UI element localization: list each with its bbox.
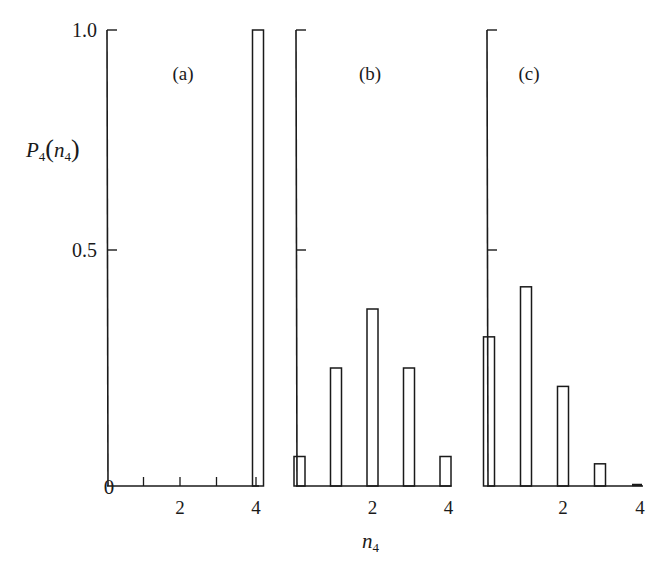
bar: [521, 287, 532, 486]
y-axis: [107, 30, 108, 486]
x-tick-label: 4: [444, 497, 454, 518]
bar: [440, 457, 451, 487]
y-axis: [487, 30, 488, 486]
x-tick-label: 2: [558, 497, 568, 518]
x-tick-label: 4: [251, 497, 261, 518]
bar: [595, 464, 606, 486]
y-axis-label: P4(n4): [25, 134, 80, 164]
y-tick-label: 0.5: [72, 239, 97, 261]
origin-label: 0: [104, 475, 115, 499]
x-tick-label: 4: [635, 497, 645, 518]
bar: [367, 309, 378, 486]
chart-figure: 24(a)24(b)24(c)0.51.00P4(n4)n4: [0, 0, 666, 574]
bar: [404, 368, 415, 486]
bar: [558, 386, 569, 486]
x-tick-label: 2: [175, 497, 185, 518]
panel-b: [294, 30, 452, 486]
y-axis: [296, 30, 297, 486]
bar: [331, 368, 342, 486]
panel-label: (a): [172, 63, 193, 85]
bar: [294, 457, 305, 487]
y-tick-label: 1.0: [72, 19, 97, 41]
x-axis-label: n4: [362, 529, 380, 555]
panel-c: [484, 30, 644, 486]
x-tick-label: 2: [368, 497, 378, 518]
panel-a: [107, 30, 264, 486]
bar: [484, 337, 495, 486]
bar: [253, 30, 264, 486]
panel-label: (c): [518, 63, 539, 85]
panel-label: (b): [359, 63, 381, 85]
